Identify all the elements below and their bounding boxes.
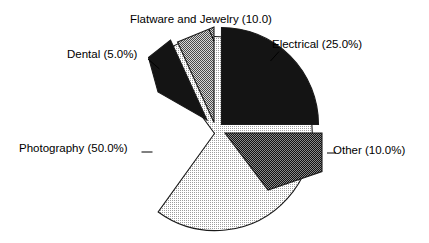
pie-label-other: Other (10.0%) bbox=[333, 144, 405, 157]
pie-chart-canvas bbox=[0, 0, 429, 243]
pie-label-flatware-and-jewelry: Flatware and Jewelry (10.0) bbox=[130, 13, 272, 26]
pie-label-photography: Photography (50.0%) bbox=[19, 142, 128, 155]
pie-chart-figure: Flatware and Jewelry (10.0) Electrical (… bbox=[0, 0, 429, 243]
pie-label-dental: Dental (5.0%) bbox=[67, 48, 137, 61]
pie-label-electrical: Electrical (25.0%) bbox=[272, 38, 362, 51]
